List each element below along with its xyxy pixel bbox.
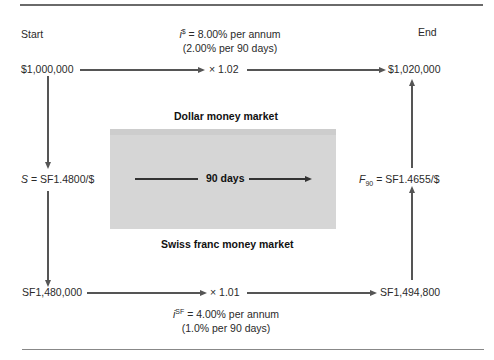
swiss-rate-period: (1.0% per 90 days)	[166, 323, 286, 334]
forward-rate-value: = SF1.4655/$	[373, 173, 439, 185]
forward-rate-label: F90 = SF1.4655/$	[359, 174, 439, 185]
arrowhead-down-icon	[45, 162, 51, 169]
arrowhead-right-icon	[379, 67, 386, 73]
dollar-rate-annual: i$ = 8.00% per annum	[170, 29, 290, 40]
swiss-end-amount: SF1,494,800	[380, 287, 440, 298]
arrow-swiss-end-to-forward	[411, 192, 413, 280]
arrowhead-up-icon	[409, 79, 415, 86]
dollar-multiplier: × 1.02	[209, 64, 239, 75]
swiss-rate-annual: iSF = 4.00% per annum	[166, 309, 286, 320]
arrow-dollar-start-to-multiplier	[80, 69, 198, 71]
arrowhead-right-icon	[200, 290, 207, 296]
swiss-rate-superscript: SF	[175, 308, 184, 315]
dollar-market-title: Dollar money market	[174, 111, 278, 122]
start-label: Start	[21, 29, 43, 40]
spot-rate-value: = SF1.4800/$	[28, 173, 94, 185]
arrow-swiss-start-to-multiplier	[87, 292, 200, 294]
end-label: End	[418, 27, 437, 38]
period-arrow-right-segment	[249, 178, 305, 180]
top-rule	[20, 4, 483, 6]
dollar-end-amount: $1,020,000	[388, 64, 441, 75]
dollar-start-amount: $1,000,000	[21, 64, 74, 75]
arrowhead-right-icon	[305, 176, 312, 182]
arrowhead-up-icon	[409, 186, 415, 193]
dollar-rate-period: (2.00% per 90 days)	[170, 43, 290, 54]
period-arrow-left-segment	[135, 178, 198, 180]
arrowhead-right-icon	[370, 290, 377, 296]
swiss-market-title: Swiss franc money market	[161, 239, 293, 250]
arrow-spot-to-swiss	[47, 191, 49, 281]
period-label: 90 days	[206, 173, 245, 184]
spot-rate-label: S = SF1.4800/$	[21, 174, 94, 185]
arrow-dollar-multiplier-to-end	[247, 69, 379, 71]
swiss-multiplier: × 1.01	[210, 287, 240, 298]
swiss-rate-annual-text: = 4.00% per annum	[184, 308, 279, 320]
arrowhead-right-icon	[198, 67, 205, 73]
swiss-rate-annotation: iSF = 4.00% per annum (1.0% per 90 days)	[166, 309, 286, 333]
bottom-rule	[22, 349, 484, 350]
dollar-rate-annotation: i$ = 8.00% per annum (2.00% per 90 days)	[170, 29, 290, 53]
swiss-start-amount: SF1,480,000	[22, 287, 82, 298]
arrow-forward-to-dollar-end	[411, 86, 413, 168]
box-top-shade	[110, 129, 336, 135]
spot-rate-symbol: S	[21, 173, 28, 185]
arrow-dollar-to-spot	[47, 76, 49, 162]
dollar-rate-annual-text: = 8.00% per annum	[186, 28, 281, 40]
arrow-swiss-multiplier-to-end	[247, 292, 370, 294]
